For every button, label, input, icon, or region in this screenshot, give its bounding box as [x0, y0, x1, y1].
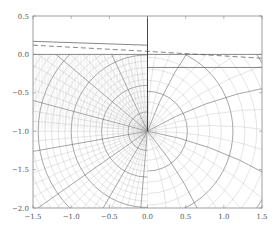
y-tick-label: −0.5 — [12, 89, 29, 97]
y-tick-label: 0.0 — [18, 51, 29, 59]
y-tick-label: 0.5 — [18, 13, 29, 21]
x-tick-label: 1.0 — [218, 213, 229, 221]
x-tick-label: −1.0 — [63, 213, 80, 221]
y-axis: 0.50.0−0.5−1.0−1.5−2.0 — [12, 13, 262, 213]
x-tick-label: 0.0 — [142, 213, 153, 221]
x-tick-label: 1.5 — [256, 213, 267, 221]
series-solid-surface-left- — [33, 41, 148, 45]
y-tick-label: −2.0 — [12, 205, 29, 213]
y-tick-label: −1.0 — [12, 128, 29, 136]
x-tick-label: −0.5 — [101, 213, 118, 221]
mesh-right — [0, 0, 278, 237]
mesh-chart: −1.5−1.0−0.50.00.51.01.5 0.50.0−0.5−1.0−… — [0, 0, 278, 237]
mesh-left — [0, 0, 278, 237]
x-tick-label: 0.5 — [180, 213, 191, 221]
x-tick-label: −1.5 — [25, 213, 42, 221]
y-tick-label: −1.5 — [12, 166, 29, 174]
